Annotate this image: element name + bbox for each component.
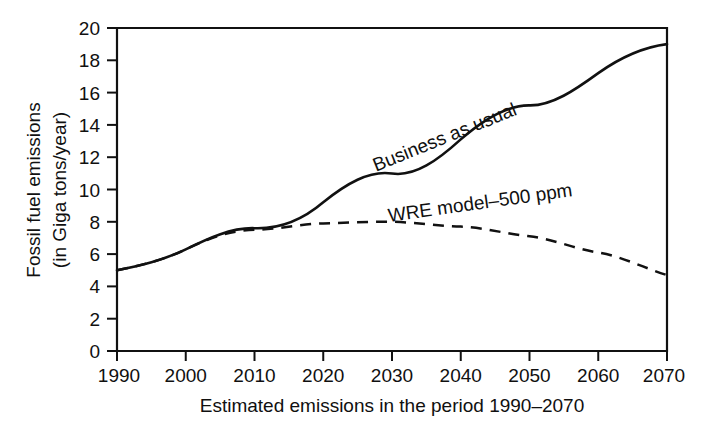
x-tick-label-2070: 2070 [643,365,685,386]
y-tick-label-4: 4 [89,276,100,297]
series-wre-model-500ppm [117,222,667,275]
x-tick-label-2040: 2040 [440,365,482,386]
y-tick-label-20: 20 [79,18,100,39]
y-axis-title-line1: Fossil fuel emissions [23,102,44,277]
x-tick-label-1990: 1990 [98,365,140,386]
chart-figure: 20 18 16 14 12 10 8 6 4 2 0 1990 [0,0,717,428]
x-axis-ticks [117,351,667,361]
y-axis-title-line2: (in Giga tons/year) [49,112,70,268]
annotation-business-as-usual: Business as usual [370,99,520,176]
annotation-wre-model: WRE model–500 ppm [387,179,574,226]
y-tick-label-18: 18 [79,50,100,71]
y-axis-ticks [107,28,117,351]
y-axis-tick-labels: 20 18 16 14 12 10 8 6 4 2 0 [79,18,101,362]
chart-canvas: 20 18 16 14 12 10 8 6 4 2 0 1990 [0,0,717,428]
x-tick-label-2030: 2030 [371,365,413,386]
plot-frame [117,28,667,351]
y-tick-label-10: 10 [79,180,100,201]
x-tick-label-2020: 2020 [302,365,344,386]
y-tick-label-2: 2 [89,309,100,330]
x-tick-label-2060: 2060 [577,365,619,386]
x-tick-label-2000: 2000 [165,365,207,386]
y-tick-label-0: 0 [89,341,100,362]
y-tick-label-6: 6 [89,244,100,265]
x-tick-label-2050: 2050 [508,365,550,386]
y-axis-title: Fossil fuel emissions (in Giga tons/year… [23,102,70,277]
x-axis-tick-labels: 1990 2000 2010 2020 2030 2040 2050 2060 … [98,365,685,386]
y-tick-label-16: 16 [79,83,100,104]
y-tick-label-8: 8 [89,212,100,233]
y-tick-label-14: 14 [79,115,101,136]
x-axis-title: Estimated emissions in the period 1990–2… [200,395,584,416]
x-tick-label-2010: 2010 [233,365,275,386]
axis-frame-path [117,28,667,351]
y-tick-label-12: 12 [79,147,100,168]
